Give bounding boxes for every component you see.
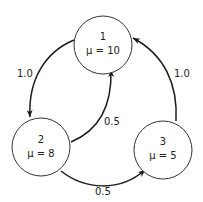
node-1-id: 1 — [100, 31, 106, 42]
edge-1-to-2 — [30, 40, 74, 117]
edge-label-2-to-1: 0.5 — [104, 116, 120, 127]
diagram-canvas: 1.0 0.5 0.5 1.0 1 μ = 10 2 μ = 8 3 μ = 5 — [0, 0, 203, 202]
edge-2-to-1 — [71, 70, 111, 142]
node-1: 1 μ = 10 — [74, 16, 132, 74]
node-2-mu: μ = 8 — [27, 148, 54, 159]
edge-label-1-to-2: 1.0 — [17, 68, 33, 79]
node-1-mu: μ = 10 — [86, 45, 120, 56]
node-2: 2 μ = 8 — [12, 118, 70, 176]
edge-label-2-to-3: 0.5 — [95, 186, 111, 197]
node-3-mu: μ = 5 — [149, 150, 176, 161]
node-3: 3 μ = 5 — [134, 121, 192, 179]
node-2-id: 2 — [38, 134, 44, 145]
node-3-id: 3 — [160, 136, 166, 147]
edge-2-to-3 — [61, 170, 145, 186]
edge-label-3-to-1: 1.0 — [174, 68, 190, 79]
edge-3-to-1 — [133, 38, 176, 121]
